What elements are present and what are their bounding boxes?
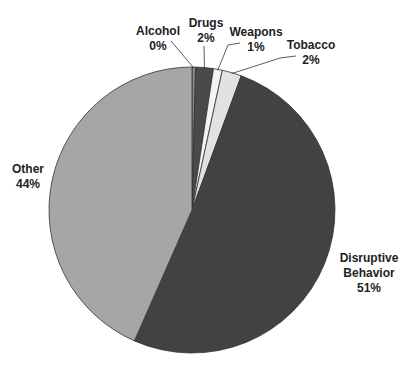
label-other: Other 44% (8, 162, 48, 192)
label-other-pct: 44% (8, 177, 48, 192)
label-tobacco: Tobacco 2% (284, 38, 338, 68)
label-tobacco-pct: 2% (284, 53, 338, 68)
label-alcohol-pct: 0% (136, 39, 180, 54)
label-weapons: Weapons 1% (228, 25, 284, 55)
label-weapons-name: Weapons (228, 25, 284, 40)
label-drugs-name: Drugs (186, 16, 226, 31)
label-drugs: Drugs 2% (186, 16, 226, 46)
label-disruptive-behavior: Disruptive Behavior 51% (334, 251, 404, 296)
label-weapons-pct: 1% (228, 40, 284, 55)
label-alcohol-name: Alcohol (136, 24, 180, 39)
label-disruptive-name-1: Disruptive (334, 251, 404, 266)
label-alcohol: Alcohol 0% (136, 24, 180, 54)
label-disruptive-pct: 51% (334, 281, 404, 296)
label-disruptive-name-2: Behavior (334, 266, 404, 281)
label-other-name: Other (8, 162, 48, 177)
label-drugs-pct: 2% (186, 31, 226, 46)
pie-chart (0, 0, 409, 368)
label-tobacco-name: Tobacco (284, 38, 338, 53)
